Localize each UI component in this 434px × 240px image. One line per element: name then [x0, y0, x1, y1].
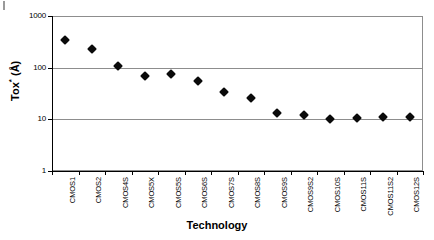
y-tick-100 [48, 68, 52, 69]
chart-figure: 1000100101 Tox* (Å) CMOS1CMOS2CMOS4SCMOS… [0, 0, 434, 240]
x-tick-5 [185, 171, 186, 175]
y-axis-title-base: Tox [9, 82, 21, 101]
x-tick-14 [423, 171, 424, 175]
gridline-100 [53, 68, 422, 69]
y-axis-title: Tox* (Å) [7, 41, 21, 121]
x-tick-7 [238, 171, 239, 175]
y-tick-label-1000: 1000 [2, 12, 46, 20]
y-tick-1000 [48, 16, 52, 17]
y-tick-10 [48, 119, 52, 120]
y-tick-label-wrap: 1000 [0, 12, 46, 20]
plot-area [52, 16, 423, 171]
y-axis-title-unit: (Å) [9, 61, 21, 76]
x-tick-13 [397, 171, 398, 175]
x-tick-0 [52, 171, 53, 175]
x-tick-2 [105, 171, 106, 175]
x-tick-1 [79, 171, 80, 175]
y-tick-label-1: 1 [2, 167, 46, 175]
x-tick-8 [264, 171, 265, 175]
x-tick-6 [211, 171, 212, 175]
y-axis-title-superscript: * [7, 79, 16, 82]
gridline-10 [53, 119, 422, 120]
x-tick-10 [317, 171, 318, 175]
x-tick-11 [344, 171, 345, 175]
scan-artifact [3, 1, 5, 10]
x-tick-12 [370, 171, 371, 175]
x-tick-9 [291, 171, 292, 175]
x-tick-4 [158, 171, 159, 175]
x-axis-title: Technology [0, 219, 434, 231]
y-axis-line [52, 16, 53, 172]
x-tick-3 [132, 171, 133, 175]
y-tick-label-wrap: 1 [0, 167, 46, 175]
